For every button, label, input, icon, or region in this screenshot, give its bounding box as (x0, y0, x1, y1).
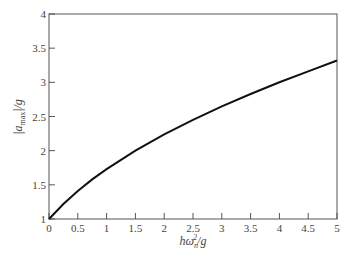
svg-text:5: 5 (334, 222, 340, 234)
data-line (49, 61, 337, 220)
svg-text:3: 3 (41, 76, 47, 88)
svg-text:2.5: 2.5 (32, 111, 46, 123)
x-axis-ticks: 00.511.522.533.544.55 (46, 213, 340, 234)
svg-text:0.5: 0.5 (71, 222, 85, 234)
plot-frame (49, 14, 337, 219)
svg-text:4: 4 (277, 222, 283, 234)
x-axis-label: hωn2/g (180, 233, 207, 250)
svg-text:1.5: 1.5 (32, 179, 46, 191)
svg-text:0: 0 (46, 222, 52, 234)
svg-text:3.5: 3.5 (244, 222, 258, 234)
chart: 00.511.522.533.544.55 11.522.533.54 hωn2… (0, 0, 354, 262)
svg-text:3: 3 (219, 222, 225, 234)
svg-text:1.5: 1.5 (129, 222, 143, 234)
svg-text:4.5: 4.5 (301, 222, 315, 234)
svg-text:2: 2 (41, 145, 47, 157)
y-axis-ticks: 11.522.533.54 (32, 8, 55, 225)
svg-text:2: 2 (161, 222, 167, 234)
svg-text:3.5: 3.5 (32, 42, 46, 54)
svg-text:1: 1 (104, 222, 110, 234)
y-axis-label: |amax|/g (11, 99, 27, 135)
svg-text:1: 1 (41, 213, 47, 225)
svg-text:4: 4 (41, 8, 47, 20)
